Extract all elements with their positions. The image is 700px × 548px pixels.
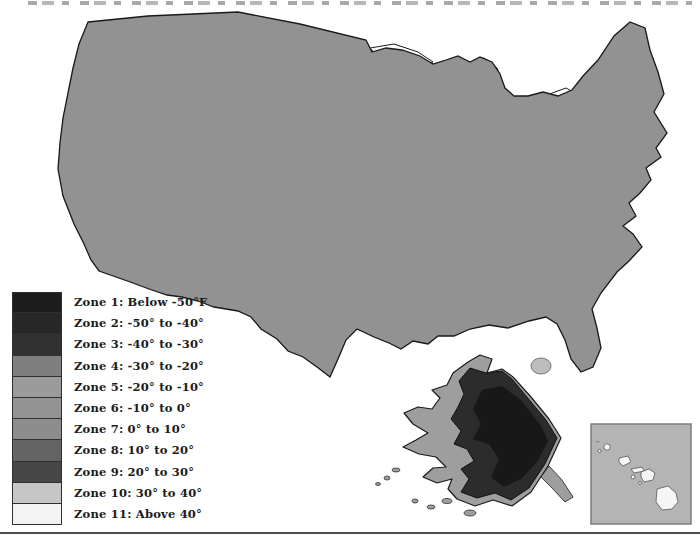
- bottom-divider: [0, 532, 700, 534]
- legend-label-zone8: Zone 8: 10° to 20°: [74, 440, 207, 461]
- alaska-panhandle: [541, 466, 573, 502]
- legend-label-zone6: Zone 6: -10° to 0°: [74, 398, 207, 419]
- hawaii-inset: [591, 424, 691, 524]
- legend-swatch-zone3: [12, 334, 62, 355]
- legend-swatch-zone11: [12, 504, 62, 525]
- zone-legend-labels: Zone 1: Below -50°F Zone 2: -50° to -40°…: [74, 292, 207, 525]
- legend-swatch-zone7: [12, 419, 62, 440]
- legend-swatch-zone2: [12, 313, 62, 334]
- legend-label-zone10: Zone 10: 30° to 40°: [74, 483, 207, 504]
- legend-label-zone5: Zone 5: -20° to -10°: [74, 377, 207, 398]
- legend-swatch-zone1: [12, 292, 62, 313]
- alaska-inset: [376, 355, 574, 516]
- legend-label-zone7: Zone 7: 0° to 10°: [74, 419, 207, 440]
- alaska-canada-blob: [531, 358, 551, 374]
- map-page: Zone 1: Below -50°F Zone 2: -50° to -40°…: [0, 0, 700, 548]
- legend-label-zone11: Zone 11: Above 40°: [74, 504, 207, 525]
- legend-label-zone1: Zone 1: Below -50°F: [74, 292, 207, 313]
- legend-swatch-zone8: [12, 440, 62, 461]
- legend-swatch-zone6: [12, 398, 62, 419]
- legend-swatch-zone10: [12, 483, 62, 504]
- legend-label-zone3: Zone 3: -40° to -30°: [74, 334, 207, 355]
- legend-swatch-zone4: [12, 356, 62, 377]
- zone-legend-swatches: [12, 292, 62, 525]
- legend-label-zone2: Zone 2: -50° to -40°: [74, 313, 207, 334]
- legend-label-zone4: Zone 4: -30° to -20°: [74, 356, 207, 377]
- legend-swatch-zone9: [12, 462, 62, 483]
- legend-swatch-zone5: [12, 377, 62, 398]
- legend-label-zone9: Zone 9: 20° to 30°: [74, 462, 207, 483]
